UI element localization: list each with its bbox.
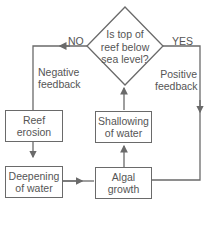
decision-text: Is top of reef below sea level?	[95, 28, 155, 66]
positive-line-2: feedback	[155, 80, 197, 92]
node-shallowing-of-water: Shallowing of water	[95, 111, 152, 143]
deepening-line-1: Deepening	[9, 170, 60, 182]
shallowing-line-1: Shallowing	[98, 115, 149, 127]
positive-feedback-label: Positive feedback	[155, 68, 197, 92]
negative-line-1: Negative	[38, 66, 81, 78]
deepening-line-2: of water	[9, 182, 60, 194]
algal-growth-line-2: growth	[108, 183, 140, 195]
negative-feedback-label: Negative feedback	[38, 66, 81, 90]
no-label: NO	[68, 35, 84, 47]
decision-line-1: Is top of	[95, 28, 155, 41]
decision-line-3: sea level?	[95, 53, 155, 66]
negative-line-2: feedback	[38, 78, 81, 90]
decision-line-2: reef below	[95, 41, 155, 54]
positive-line-1: Positive	[155, 68, 197, 80]
reef-erosion-line-1: Reef	[17, 114, 51, 126]
node-reef-erosion: Reef erosion	[5, 110, 63, 142]
algal-growth-line-1: Algal	[108, 171, 140, 183]
reef-erosion-line-2: erosion	[17, 126, 51, 138]
node-algal-growth: Algal growth	[95, 167, 152, 199]
node-deepening-of-water: Deepening of water	[5, 166, 63, 198]
shallowing-line-2: of water	[98, 127, 149, 139]
yes-label: YES	[172, 35, 193, 47]
